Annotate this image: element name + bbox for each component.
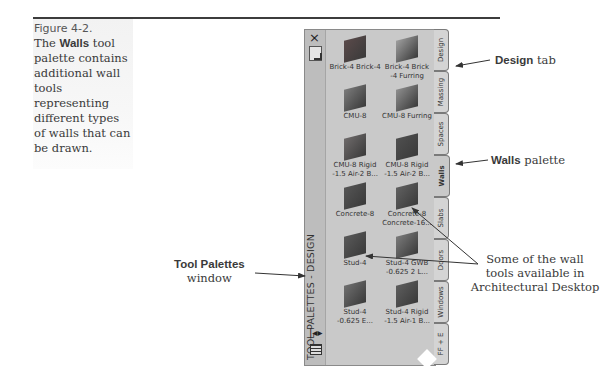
callout-walls-palette: Walls palette <box>491 153 565 167</box>
callout-wall-tools: Some of the wall tools available in Arch… <box>465 252 605 294</box>
callout-tool-palettes: Tool Palettes window <box>174 257 245 285</box>
callout-design-tab: Design tab <box>495 53 556 67</box>
